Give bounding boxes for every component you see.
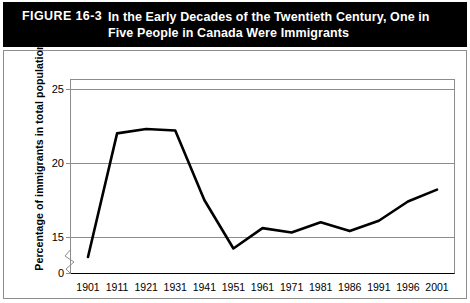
data-series-line bbox=[70, 79, 455, 274]
y-tick-label: 25 bbox=[52, 83, 64, 95]
x-tick-label: 1981 bbox=[309, 281, 332, 293]
chart-frame: Percentage of immigrants in total popula… bbox=[3, 50, 467, 299]
x-tick-label: 1951 bbox=[222, 281, 245, 293]
figure-header-bar: FIGURE 16-3 In the Early Decades of the … bbox=[3, 2, 467, 47]
x-tick-label: 2001 bbox=[425, 281, 448, 293]
y-axis-title: Percentage of immigrants in total popula… bbox=[33, 42, 45, 272]
y-tick-label: 15 bbox=[52, 231, 64, 243]
figure-container: FIGURE 16-3 In the Early Decades of the … bbox=[0, 0, 470, 303]
x-tick-label: 1911 bbox=[106, 281, 129, 293]
x-tick-label: 1931 bbox=[164, 281, 187, 293]
x-tick-label: 1991 bbox=[367, 281, 390, 293]
x-tick-label: 1921 bbox=[134, 281, 157, 293]
figure-number-label: FIGURE 16-3 bbox=[22, 9, 102, 23]
x-tick-label: 1996 bbox=[396, 281, 419, 293]
x-tick-label: 1941 bbox=[193, 281, 216, 293]
y-tick-label: 20 bbox=[52, 157, 64, 169]
x-tick-label: 1961 bbox=[251, 281, 274, 293]
x-tick-label: 1901 bbox=[76, 281, 99, 293]
y-axis-break-icon bbox=[64, 249, 78, 275]
plot-area: 0152025 19011911192119311941195119611971… bbox=[70, 79, 455, 274]
x-tick-label: 1971 bbox=[280, 281, 303, 293]
figure-title: In the Early Decades of the Twentieth Ce… bbox=[108, 9, 453, 41]
x-tick-label: 1986 bbox=[338, 281, 361, 293]
